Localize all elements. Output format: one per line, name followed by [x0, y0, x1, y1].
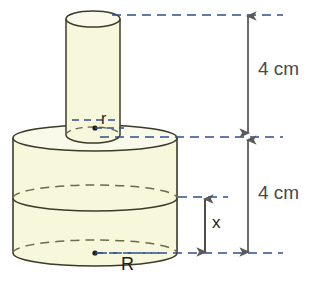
- small-cylinder: [66, 11, 120, 143]
- large-radius-label: R: [121, 254, 134, 275]
- large-cylinder: [13, 125, 177, 266]
- composite-cylinder-diagram: [0, 0, 311, 281]
- small-cylinder-body: [66, 19, 120, 143]
- small-radius-label: r: [101, 110, 106, 128]
- top-dimension-label: 4 cm: [258, 58, 299, 80]
- partial-height-label: x: [212, 213, 221, 233]
- large-cylinder-body: [13, 138, 177, 266]
- small-cylinder-top-face: [66, 11, 120, 27]
- bottom-dimension-label: 4 cm: [258, 182, 299, 204]
